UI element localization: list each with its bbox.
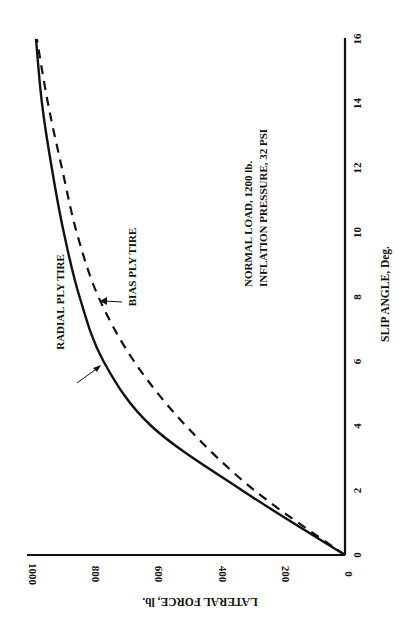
bias-ply-label: BIAS PLY TIRE xyxy=(126,228,138,306)
inflation-pressure-note: INFLATION PRESSURE, 32 PSI xyxy=(257,129,269,287)
slip-angle-tick-label: 2 xyxy=(351,487,363,493)
lateral-force-tick-label: 0 xyxy=(343,571,355,577)
normal-load-note: NORMAL LOAD, 1200 lb. xyxy=(242,161,254,287)
slip-angle-tick-label: 12 xyxy=(351,162,363,174)
slip-angle-tick-label: 4 xyxy=(351,423,363,429)
lateral-force-tick-label: 400 xyxy=(217,566,229,583)
radial-ply-curve xyxy=(36,39,345,555)
radial-ply-label: RADIAL PLY TIRE xyxy=(54,254,66,350)
slip-angle-ticks: 0246810121416 xyxy=(351,33,363,558)
slip-angle-tick-label: 8 xyxy=(351,294,363,300)
slip-angle-tick-label: 6 xyxy=(351,358,363,364)
lateral-force-ticks: 02004006008001000 xyxy=(27,563,355,586)
slip-angle-tick-label: 10 xyxy=(351,227,363,239)
lateral-force-tick-label: 600 xyxy=(153,566,165,583)
bias-ply-curve xyxy=(37,39,345,555)
lateral-force-chart: 0246810121416 02004006008001000 SLIP ANG… xyxy=(0,0,406,631)
slip-angle-tick-label: 16 xyxy=(351,33,363,45)
slip-angle-tick-label: 14 xyxy=(351,98,363,110)
lateral-force-axis-title: LATERAL FORCE, lb. xyxy=(142,596,258,608)
lateral-force-tick-label: 1000 xyxy=(27,563,39,586)
lateral-force-tick-label: 800 xyxy=(90,566,102,583)
lateral-force-tick-label: 200 xyxy=(280,566,292,583)
slip-angle-tick-label: 0 xyxy=(351,552,363,558)
slip-angle-axis-title: SLIP ANGLE, Deg. xyxy=(379,246,392,342)
